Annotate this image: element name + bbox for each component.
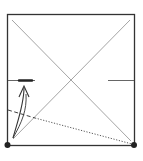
bottom-left-reference-point (5, 142, 11, 148)
bottom-right-reference-point (131, 142, 137, 148)
origami-diagram (0, 0, 143, 161)
